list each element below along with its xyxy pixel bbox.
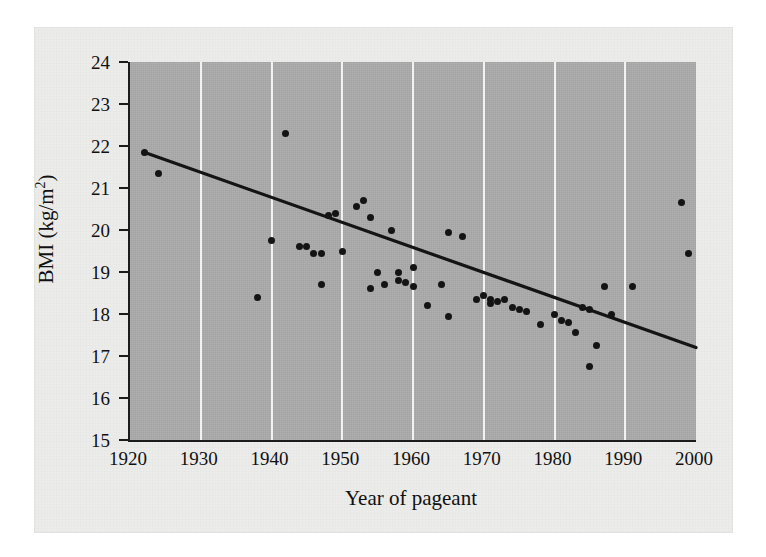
y-tick-mark-16 [119,397,128,399]
data-point [459,233,466,240]
x-tick-label-1960: 1960 [376,449,446,468]
data-point [254,294,261,301]
y-axis-title-base: BMI (kg/m [34,188,58,283]
y-axis-title-close: ) [34,174,58,181]
data-point [551,311,558,318]
y-tick-label-19: 19 [70,263,110,282]
y-tick-mark-23 [119,103,128,105]
y-tick-label-16: 16 [70,389,110,408]
data-point [318,250,325,257]
data-point [325,212,332,219]
trend-line [130,62,696,440]
data-point [155,170,162,177]
y-tick-label-20: 20 [70,221,110,240]
y-tick-mark-19 [119,271,128,273]
y-axis-title: BMI (kg/m2) [33,119,59,339]
y-tick-label-24: 24 [70,53,110,72]
data-point [516,306,523,313]
y-tick-mark-17 [119,355,128,357]
y-tick-mark-18 [119,313,128,315]
y-tick-mark-22 [119,145,128,147]
data-point [565,319,572,326]
y-axis-title-superscript: 2 [33,181,48,188]
data-point [395,269,402,276]
data-point [629,283,636,290]
data-point [558,317,565,324]
data-point [318,281,325,288]
data-point [438,281,445,288]
x-tick-label-1980: 1980 [518,449,588,468]
y-tick-mark-21 [119,187,128,189]
data-point [410,264,417,271]
y-tick-mark-24 [119,61,128,63]
x-tick-label-1950: 1950 [305,449,375,468]
x-tick-label-2000: 2000 [659,449,729,468]
data-point [445,229,452,236]
x-tick-label-1920: 1920 [93,449,163,468]
x-axis-title: Year of pageant [128,486,694,511]
data-point [268,237,275,244]
data-point [410,283,417,290]
data-point [374,269,381,276]
data-point [480,292,487,299]
y-tick-label-18: 18 [70,305,110,324]
y-tick-mark-20 [119,229,128,231]
y-tick-label-22: 22 [70,137,110,156]
data-point [473,296,480,303]
x-tick-label-1970: 1970 [447,449,517,468]
bmi-scatter-chart: 15161718192021222324 1920193019401950196… [0,0,766,557]
data-point [339,248,346,255]
data-point [360,197,367,204]
x-tick-label-1930: 1930 [164,449,234,468]
data-point [367,214,374,221]
data-point [141,149,148,156]
data-point [388,227,395,234]
x-tick-label-1940: 1940 [235,449,305,468]
x-tick-label-1990: 1990 [588,449,658,468]
y-tick-label-21: 21 [70,179,110,198]
data-point [509,304,516,311]
data-point [282,130,289,137]
data-point [424,302,431,309]
y-tick-label-17: 17 [70,347,110,366]
y-tick-label-23: 23 [70,95,110,114]
data-point [445,313,452,320]
y-tick-label-15: 15 [70,431,110,450]
plot-area [128,62,696,442]
data-point [601,283,608,290]
data-point [537,321,544,328]
data-point [332,210,339,217]
data-point [608,311,615,318]
y-tick-mark-15 [119,439,128,441]
